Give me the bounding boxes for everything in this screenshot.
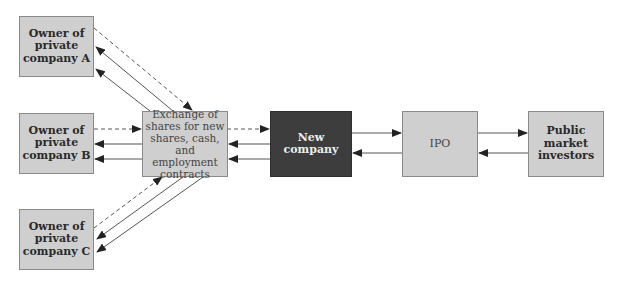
solid-arrow-exchange-to-c-1 (97, 177, 183, 239)
new-company-box: New company (270, 111, 352, 177)
owner-company-c-box: Owner of private company C (19, 209, 94, 270)
owner-b-line-3: company B (22, 150, 90, 163)
public-market-investors-box: Public market investors (528, 111, 604, 177)
public-line-1: Public (538, 125, 594, 138)
exchange-line-5: contracts (143, 168, 227, 180)
solid-arrow-exchange-to-c-2 (97, 177, 203, 252)
share-exchange-box: Exchange of shares for new shares, cash,… (142, 111, 228, 177)
solid-arrow-exchange-to-a-2 (96, 69, 150, 111)
exchange-line-4: employment (143, 156, 227, 168)
ipo-rollup-diagram: Owner of private company A Owner of priv… (0, 0, 623, 284)
dashed-arrow-a-to-exchange (94, 28, 192, 110)
owner-company-a-box: Owner of private company A (19, 16, 94, 77)
owner-c-line-2: private (23, 233, 90, 246)
owner-a-line-3: company A (23, 53, 90, 66)
new-company-line-2: company (284, 144, 339, 157)
exchange-line-2: shares for new (143, 120, 227, 132)
owner-b-line-2: private (22, 137, 90, 150)
ipo-box: IPO (402, 111, 478, 177)
owner-company-b-box: Owner of private company B (19, 113, 94, 174)
public-line-3: investors (538, 150, 594, 163)
exchange-line-1: Exchange of (143, 108, 227, 120)
owner-a-line-2: private (23, 40, 90, 53)
solid-arrow-exchange-to-a-1 (96, 47, 173, 111)
ipo-label: IPO (430, 138, 451, 151)
owner-c-line-3: company C (23, 246, 90, 259)
exchange-line-3: shares, cash, and (143, 132, 227, 156)
dashed-arrow-c-to-exchange (94, 177, 162, 228)
